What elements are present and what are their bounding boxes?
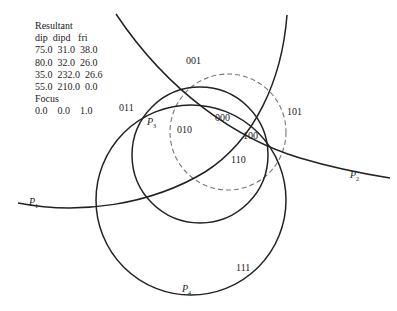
legend-row: 75.0 31.0 38.0 (35, 44, 103, 56)
legend-row: 35.0 232.0 26.6 (35, 69, 103, 81)
region-label-010: 010 (177, 124, 192, 135)
region-label-110: 110 (231, 154, 246, 165)
resultant-legend: Resultant dip dipd fri 75.0 31.0 38.0 80… (35, 20, 103, 118)
region-label-011: 011 (119, 102, 134, 113)
region-label-001: 001 (186, 55, 201, 66)
plane-p2-arc (116, 14, 390, 178)
legend-title: Resultant (35, 20, 103, 32)
legend-row: 55.0 210.0 0.0 (35, 81, 103, 93)
legend-header: dip dipd fri (35, 32, 103, 44)
plane-label-p4: P4 (182, 283, 191, 296)
focus-row: 0.0 0.0 1.0 (35, 105, 103, 117)
region-label-101: 101 (287, 106, 302, 117)
region-label-111: 111 (236, 262, 250, 273)
legend-row: 80.0 32.0 26.0 (35, 57, 103, 69)
plane-label-p3: P3 (147, 116, 156, 129)
plane-label-p1: P1 (29, 196, 38, 209)
region-label-100: 100 (243, 130, 258, 141)
plane-label-p2: P2 (350, 169, 359, 182)
plane-p3-circle (132, 87, 268, 223)
focus-title: Focus (35, 93, 103, 105)
region-label-000: 000 (215, 112, 230, 123)
